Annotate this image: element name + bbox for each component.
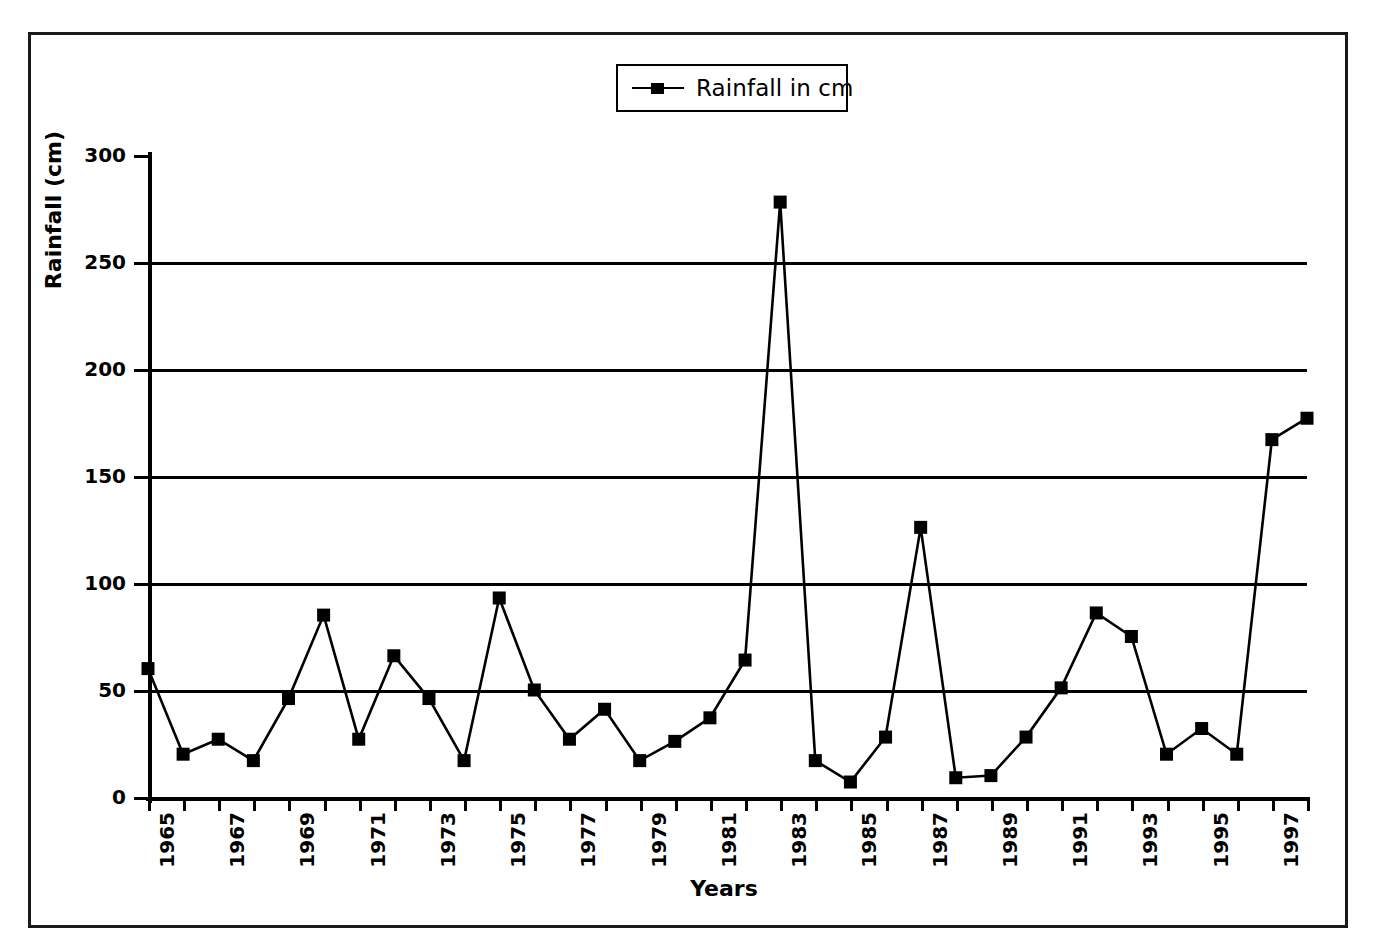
x-axis-tick: [148, 797, 151, 811]
data-point-marker: [879, 731, 892, 744]
x-axis-tick: [780, 797, 783, 811]
data-point-marker: [247, 754, 260, 767]
data-point-marker: [1055, 681, 1068, 694]
x-axis-tick: [745, 797, 748, 811]
x-axis-tick: [815, 797, 818, 811]
x-axis-tick: [1237, 797, 1240, 811]
data-point-marker: [1090, 606, 1103, 619]
data-point-marker: [703, 711, 716, 724]
x-axis-tick-label: 1985: [859, 812, 879, 868]
x-axis-line: [146, 797, 1309, 801]
chart-legend: Rainfall in cm: [616, 64, 848, 112]
plot-area: [148, 155, 1307, 797]
x-axis-tick: [359, 797, 362, 811]
x-axis-tick: [394, 797, 397, 811]
data-point-marker: [317, 609, 330, 622]
x-axis-tick: [429, 797, 432, 811]
x-axis-tick: [1061, 797, 1064, 811]
data-point-marker: [212, 733, 225, 746]
data-point-marker: [282, 692, 295, 705]
x-axis-tick-label: 1969: [297, 812, 317, 868]
data-point-marker: [844, 776, 857, 789]
data-point-marker: [1125, 630, 1138, 643]
x-axis-tick: [218, 797, 221, 811]
x-axis-tick: [464, 797, 467, 811]
x-axis-tick: [499, 797, 502, 811]
x-axis-tick-label: 1997: [1281, 812, 1301, 868]
x-axis-tick: [1272, 797, 1275, 811]
x-axis-tick: [183, 797, 186, 811]
x-axis-tick-label: 1983: [789, 812, 809, 868]
x-axis-tick: [569, 797, 572, 811]
x-axis-tick: [850, 797, 853, 811]
x-axis-tick-label: 1975: [508, 812, 528, 868]
rainfall-series: [148, 155, 1307, 797]
x-axis-tick-label: 1971: [368, 812, 388, 868]
data-point-marker: [177, 748, 190, 761]
y-axis-tick-label: 50: [58, 680, 126, 700]
y-axis-title: Rainfall (cm): [34, 50, 74, 370]
y-axis-tick-label: 300: [58, 145, 126, 165]
data-point-marker: [1195, 722, 1208, 735]
data-point-marker: [458, 754, 471, 767]
x-axis-tick: [956, 797, 959, 811]
data-point-marker: [563, 733, 576, 746]
y-axis-tick-label: 150: [58, 466, 126, 486]
x-axis-tick: [253, 797, 256, 811]
x-axis-tick: [1096, 797, 1099, 811]
x-axis-tick: [886, 797, 889, 811]
x-axis-tick-label: 1981: [719, 812, 739, 868]
x-axis-tick: [640, 797, 643, 811]
series-line: [148, 202, 1307, 782]
x-axis-tick-label: 1977: [578, 812, 598, 868]
data-point-marker: [1301, 412, 1314, 425]
y-axis-tick-label: 0: [58, 787, 126, 807]
data-point-marker: [668, 735, 681, 748]
x-axis-tick-label: 1973: [438, 812, 458, 868]
x-axis-tick: [288, 797, 291, 811]
x-axis-tick: [324, 797, 327, 811]
x-axis-tick: [921, 797, 924, 811]
x-axis-tick-label: 1989: [1000, 812, 1020, 868]
data-point-marker: [493, 591, 506, 604]
x-axis-tick-label: 1987: [930, 812, 950, 868]
x-axis-tick: [1026, 797, 1029, 811]
x-axis-tick: [1167, 797, 1170, 811]
data-point-marker: [1265, 433, 1278, 446]
x-axis-tick: [1202, 797, 1205, 811]
y-axis-tick-label: 100: [58, 573, 126, 593]
data-point-marker: [633, 754, 646, 767]
x-axis-tick: [710, 797, 713, 811]
data-point-marker: [598, 703, 611, 716]
data-point-marker: [422, 692, 435, 705]
x-axis-tick: [605, 797, 608, 811]
data-point-marker: [739, 654, 752, 667]
x-axis-tick-label: 1991: [1070, 812, 1090, 868]
x-axis-tick: [675, 797, 678, 811]
x-axis-tick-label: 1965: [157, 812, 177, 868]
data-point-marker: [142, 662, 155, 675]
x-axis-title: Years: [138, 876, 1310, 901]
x-axis-tick: [534, 797, 537, 811]
data-point-marker: [1160, 748, 1173, 761]
x-axis-tick: [991, 797, 994, 811]
x-axis-tick: [1307, 797, 1310, 811]
x-axis-tick: [1131, 797, 1134, 811]
rainfall-line-chart-figure: Rainfall in cm Rainfall (cm) Years 05010…: [0, 0, 1376, 948]
data-point-marker: [984, 769, 997, 782]
x-axis-tick-label: 1967: [227, 812, 247, 868]
y-axis-tick-label: 200: [58, 359, 126, 379]
x-axis-tick-label: 1995: [1211, 812, 1231, 868]
y-axis-tick-label: 250: [58, 252, 126, 272]
legend-marker-icon: [632, 79, 684, 97]
data-point-marker: [914, 521, 927, 534]
x-axis-tick-label: 1993: [1140, 812, 1160, 868]
data-point-marker: [387, 649, 400, 662]
data-point-marker: [949, 771, 962, 784]
data-point-marker: [1020, 731, 1033, 744]
data-point-marker: [809, 754, 822, 767]
data-point-marker: [528, 684, 541, 697]
data-point-marker: [1230, 748, 1243, 761]
legend-label: Rainfall in cm: [696, 77, 854, 100]
data-point-marker: [774, 196, 787, 209]
